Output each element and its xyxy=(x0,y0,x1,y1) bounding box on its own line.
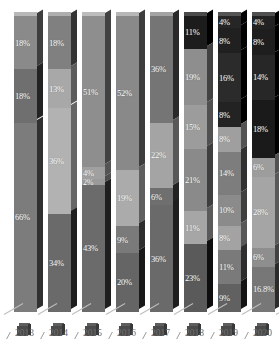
segment-value-label: 28% xyxy=(253,208,268,217)
bar-segment[interactable]: 11% xyxy=(184,211,207,244)
segment-value-label: 66% xyxy=(15,213,30,222)
segment-value-label: 8% xyxy=(219,135,230,144)
segment-value-label: 23% xyxy=(185,273,200,282)
bar-segment[interactable]: 51% xyxy=(82,16,105,167)
bar-segment[interactable]: 9% xyxy=(218,284,241,312)
bar-segment[interactable]: 18% xyxy=(14,69,37,122)
segment-value-label: 11% xyxy=(185,28,200,37)
bar-segment[interactable]: 14% xyxy=(252,55,275,100)
bar-segment[interactable]: 18% xyxy=(252,100,275,158)
bar-top-face xyxy=(218,12,241,16)
bar-2013[interactable]: 18%18%66% xyxy=(14,16,37,312)
bar-segment-side-face xyxy=(139,246,145,309)
stacked-bar-chart: 18%18%66%18%13%36%34%51%4%2%43%52%19%9%2… xyxy=(0,0,279,348)
bar-top-face xyxy=(48,12,71,16)
segment-value-label: 43% xyxy=(83,244,98,253)
bar-top-face xyxy=(82,12,105,16)
bar-segment[interactable]: 16% xyxy=(218,53,241,102)
bar-segment[interactable]: 8% xyxy=(218,102,241,127)
bar-segment[interactable]: 18% xyxy=(14,16,37,69)
bar-2014[interactable]: 18%13%36%34% xyxy=(48,16,71,312)
segment-value-label: 9% xyxy=(117,235,128,244)
segment-value-label: 36% xyxy=(49,157,64,166)
segment-value-label: 22% xyxy=(151,151,166,160)
bar-segment[interactable]: 36% xyxy=(150,205,173,312)
bar-segment[interactable]: 4% xyxy=(252,16,275,29)
bar-segment[interactable]: 8% xyxy=(218,127,241,152)
bar-segment-side-face xyxy=(139,163,145,223)
bar-segment[interactable]: 14% xyxy=(218,152,241,195)
bar-2019[interactable]: 4%8%16%8%8%14%10%8%11%9% xyxy=(218,16,241,312)
bar-segment[interactable]: 43% xyxy=(82,185,105,312)
bar-stack-2015: 51%4%2%43% xyxy=(82,16,105,312)
bar-segment[interactable]: 19% xyxy=(184,49,207,105)
bar-stack-2013: 18%18%66% xyxy=(14,16,37,312)
segment-value-label: 34% xyxy=(49,259,64,268)
segment-value-label: 4% xyxy=(83,168,94,177)
segment-value-label: 18% xyxy=(15,91,30,100)
bar-segment-side-face xyxy=(173,116,179,185)
segment-value-label: 10% xyxy=(219,206,234,215)
segment-value-label: 8% xyxy=(219,36,230,45)
bar-segment[interactable]: 11% xyxy=(218,250,241,284)
bar-segment[interactable]: 66% xyxy=(14,123,37,312)
bar-2016[interactable]: 52%19%9%20% xyxy=(116,16,139,312)
bar-segment[interactable]: 8% xyxy=(218,28,241,53)
segment-value-label: 4% xyxy=(219,18,230,27)
bar-segment-side-face xyxy=(105,178,111,309)
bar-segment[interactable]: 9% xyxy=(116,226,139,253)
segment-value-label: 13% xyxy=(49,84,64,93)
bar-2020[interactable]: 4%8%14%18%6%28%6%16.8% xyxy=(252,16,275,312)
bar-segment[interactable]: 6% xyxy=(150,188,173,206)
bar-segment[interactable]: 8% xyxy=(218,226,241,251)
bar-segment[interactable]: 8% xyxy=(252,29,275,55)
segment-value-label: 14% xyxy=(253,73,268,82)
bar-segment[interactable]: 6% xyxy=(252,158,275,177)
bar-segment-side-face xyxy=(241,188,247,222)
bar-segment[interactable]: 22% xyxy=(150,123,173,188)
segment-value-label: 18% xyxy=(49,38,64,47)
segment-value-label: 51% xyxy=(83,87,98,96)
bar-segment[interactable]: 4% xyxy=(218,16,241,28)
bar-stack-2020: 4%8%14%18%6%28%6%16.8% xyxy=(252,16,275,312)
bar-segment[interactable]: 36% xyxy=(150,16,173,123)
bar-segment-side-face xyxy=(71,101,77,211)
bar-segment-side-face xyxy=(207,98,213,146)
bar-segment[interactable]: 19% xyxy=(116,170,139,226)
bar-segment[interactable]: 13% xyxy=(48,69,71,107)
segment-value-label: 16.8% xyxy=(253,285,274,294)
x-axis-label-2017: 2017 xyxy=(144,328,177,338)
bar-stack-2014: 18%13%36%34% xyxy=(48,16,71,312)
bar-segment[interactable]: 28% xyxy=(252,177,275,248)
bar-stack-2018: 11%19%15%21%11%23% xyxy=(184,16,207,312)
bar-segment-side-face xyxy=(71,63,77,105)
segment-value-label: 21% xyxy=(185,176,200,185)
bar-segment-side-face xyxy=(207,10,213,46)
bar-segment[interactable]: 34% xyxy=(48,214,71,312)
bar-stack-2017: 36%22%6%36% xyxy=(150,16,173,312)
bar-segment[interactable]: 20% xyxy=(116,253,139,312)
bar-segment-side-face xyxy=(37,63,43,120)
bar-segment-side-face xyxy=(37,116,43,309)
bar-segment[interactable]: 52% xyxy=(116,16,139,170)
segment-value-label: 11% xyxy=(219,263,234,272)
bar-segment[interactable]: 23% xyxy=(184,244,207,312)
bar-segment[interactable]: 10% xyxy=(218,195,241,226)
segment-value-label: 18% xyxy=(253,124,268,133)
bar-segment[interactable]: 36% xyxy=(48,108,71,215)
bar-segment[interactable]: 11% xyxy=(184,16,207,49)
segment-value-label: 14% xyxy=(219,169,234,178)
bar-segment-side-face xyxy=(71,208,77,309)
bar-segment[interactable]: 21% xyxy=(184,149,207,211)
bar-segment[interactable]: 18% xyxy=(48,16,71,69)
bar-segment-side-face xyxy=(139,220,145,250)
bar-2018[interactable]: 11%19%15%21%11%23% xyxy=(184,16,207,312)
segment-value-label: 11% xyxy=(185,223,200,232)
bar-2017[interactable]: 36%22%6%36% xyxy=(150,16,173,312)
bar-segment-side-face xyxy=(105,10,111,164)
bar-segment[interactable]: 15% xyxy=(184,105,207,149)
bar-2015[interactable]: 51%4%2%43% xyxy=(82,16,105,312)
bar-segment[interactable]: 6% xyxy=(252,248,275,267)
segment-value-label: 52% xyxy=(117,89,132,98)
bar-segment-side-face xyxy=(241,278,247,309)
